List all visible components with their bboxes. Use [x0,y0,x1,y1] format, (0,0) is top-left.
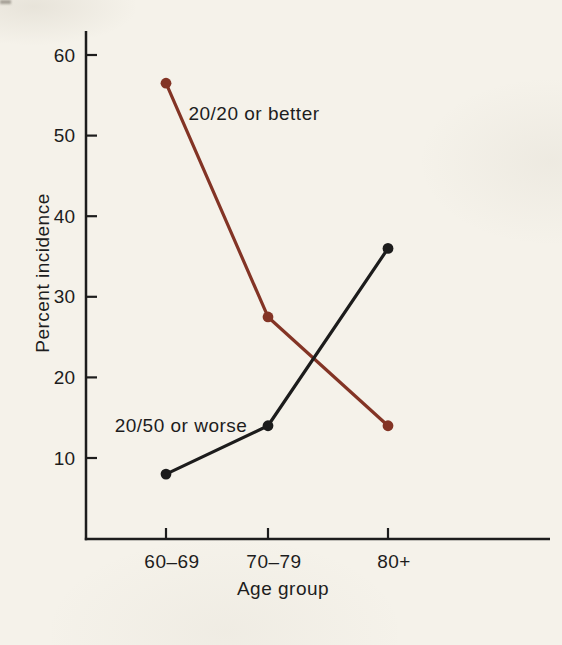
y-tick-label: 60 [54,45,75,66]
y-tick-label: 30 [54,286,75,307]
y-tick-label: 50 [54,125,75,146]
figure-canvas: 10203040506060–6970–7980+20/20 or better… [0,0,562,645]
data-point [161,78,172,89]
x-tick-label: 70–79 [246,551,301,572]
data-point [383,243,394,254]
x-axis-title: Age group [208,578,358,600]
series-label: 20/20 or better [188,103,319,124]
data-point [383,420,394,431]
line-chart: 10203040506060–6970–7980+20/20 or better… [0,0,562,645]
x-tick-label: 60–69 [144,551,199,572]
x-tick-label: 80+ [377,551,411,572]
series-line [166,248,388,474]
data-point [161,469,172,480]
series-line [166,83,388,426]
series-label: 20/50 or worse [115,415,248,436]
data-point [263,420,274,431]
y-tick-label: 40 [54,206,75,227]
y-tick-label: 10 [54,448,75,469]
y-tick-label: 20 [54,367,75,388]
y-axis-title: Percent incidence [32,189,54,357]
data-point [263,312,274,323]
